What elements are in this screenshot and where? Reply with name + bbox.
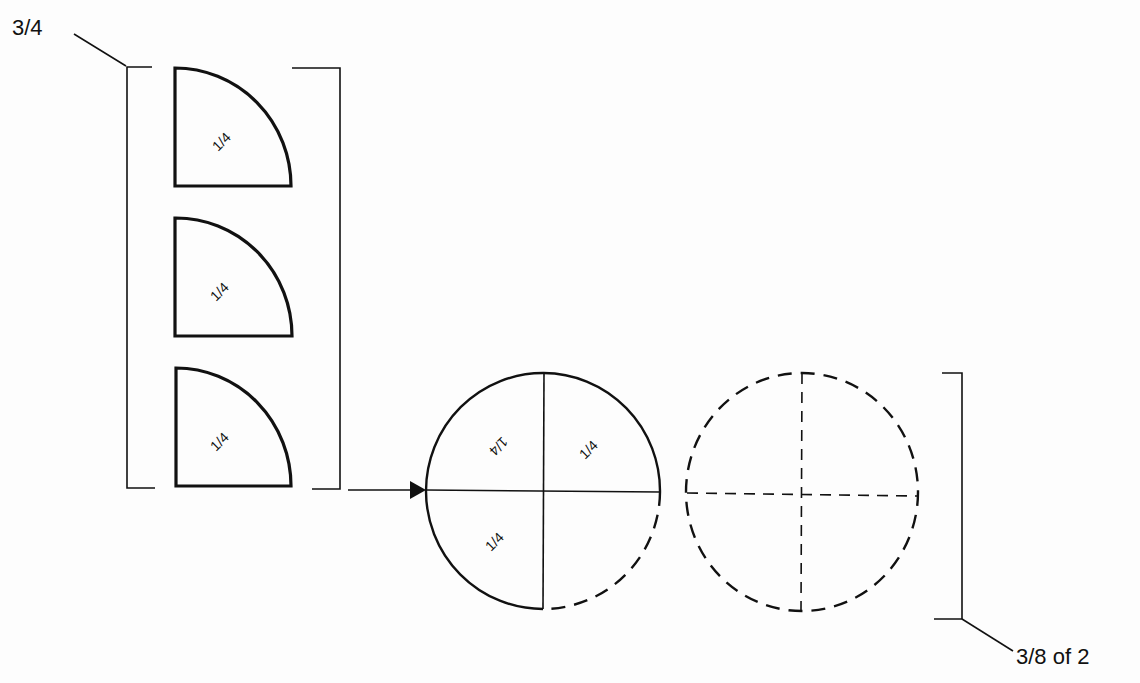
right-bracket-of-left-group bbox=[292, 68, 340, 489]
quarter-piece-3-label: 1/4 bbox=[207, 429, 232, 454]
left-bracket bbox=[127, 67, 155, 488]
missing-quarter-outline bbox=[543, 492, 660, 609]
circle-1-top-left-label: 1/4 bbox=[486, 434, 511, 459]
right-group-bracket bbox=[934, 373, 962, 619]
quarter-piece-3: 1/4 bbox=[176, 368, 291, 486]
dashed-vertical-divider bbox=[801, 373, 802, 611]
quarter-piece-2: 1/4 bbox=[175, 218, 292, 336]
three-quarters-label: 3/4 bbox=[12, 15, 43, 40]
dashed-circle bbox=[686, 373, 918, 611]
assembly-arrow bbox=[348, 481, 426, 499]
circle-1-bottom-left-label: 1/4 bbox=[482, 529, 507, 554]
three-eighths-leader-line bbox=[962, 619, 1013, 651]
assembled-circle: 1/4 1/4 1/4 bbox=[426, 373, 660, 609]
arrowhead-icon bbox=[410, 481, 426, 499]
three-eighths-of-two-label: 3/8 of 2 bbox=[1016, 644, 1089, 669]
quarter-piece-1: 1/4 bbox=[175, 68, 291, 186]
horizontal-divider bbox=[426, 490, 660, 492]
quarter-piece-1-label: 1/4 bbox=[209, 129, 234, 154]
dashed-horizontal-divider bbox=[687, 493, 918, 496]
circle-1-top-right-label: 1/4 bbox=[576, 437, 601, 462]
fraction-diagram: 3/4 1/4 1/4 1/4 1/4 1/4 1/4 bbox=[0, 0, 1140, 683]
quarter-piece-2-label: 1/4 bbox=[207, 279, 232, 304]
three-quarters-leader-line bbox=[74, 34, 126, 66]
